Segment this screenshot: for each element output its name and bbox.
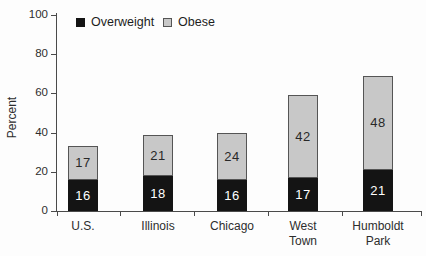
bar-value-label-obese: 48 [363,76,393,170]
y-axis-tick-label: 80 [18,47,48,59]
category-label: Chicago [192,219,272,234]
bar-value-label-obese: 21 [143,135,173,176]
legend-label-overweight: Overweight [91,15,154,29]
x-axis-tick [268,211,269,216]
legend-label-obese: Obese [178,15,215,29]
y-axis-tick [51,172,56,173]
category-label: Humboldt Park [338,219,418,249]
y-axis-tick-label: 100 [18,8,48,20]
bar-value-label-overweight: 21 [363,170,393,211]
obese-swatch-icon [163,18,172,27]
y-axis-tick-label: 40 [18,126,48,138]
x-axis-tick [342,211,343,216]
category-label: U.S. [43,219,123,234]
y-axis-tick [51,133,56,134]
bar-value-label-overweight: 18 [143,176,173,211]
bar-value-label-overweight: 17 [288,178,318,211]
y-axis-tick [51,211,56,212]
bar-value-label-obese: 24 [217,133,247,180]
overweight-swatch-icon [76,18,85,27]
category-label: Illinois [118,219,198,234]
bar-value-label-obese: 17 [68,146,98,179]
bar-value-label-obese: 42 [288,95,318,177]
legend-item-overweight: Overweight [76,15,154,29]
x-axis-tick [194,211,195,216]
y-axis-tick [51,15,56,16]
category-label: West Town [263,219,343,249]
y-axis-tick [51,54,56,55]
y-axis-tick-label: 0 [18,204,48,216]
bar-value-label-overweight: 16 [68,180,98,211]
stacked-bar-chart: Overweight Obese Percent 020406080100161… [0,0,426,256]
bar-value-label-overweight: 16 [217,180,247,211]
y-axis-tick-label: 60 [18,86,48,98]
y-axis-line [56,13,57,212]
legend-item-obese: Obese [163,15,215,29]
x-axis-tick [57,211,58,216]
y-axis-tick [51,93,56,94]
y-axis-tick-label: 20 [18,165,48,177]
x-axis-tick [120,211,121,216]
x-axis-line [56,211,422,212]
x-axis-tick [421,211,422,216]
